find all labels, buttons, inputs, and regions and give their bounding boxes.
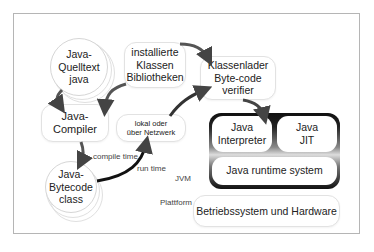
arrow-network-to-loader bbox=[170, 90, 204, 116]
arrow-libs-to-loader bbox=[180, 44, 208, 58]
connector-arrows bbox=[0, 0, 374, 252]
arrow-source-to-compiler bbox=[57, 90, 62, 106]
arrow-bytecode-to-network bbox=[97, 144, 146, 181]
arrow-loader-to-jvm bbox=[243, 100, 264, 116]
arrow-compiler-to-bytecode bbox=[81, 142, 83, 162]
arrow-libs-to-compiler bbox=[105, 84, 126, 108]
